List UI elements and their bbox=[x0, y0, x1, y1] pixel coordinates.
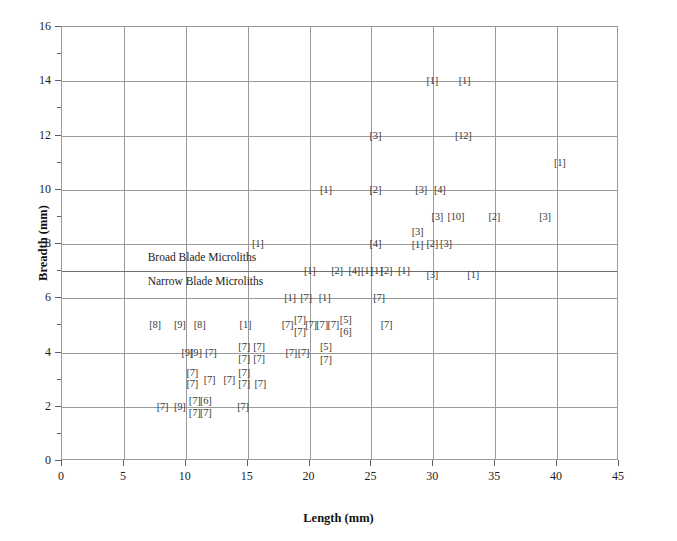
data-point-label: [7] bbox=[294, 326, 306, 337]
gridline-vertical bbox=[495, 27, 496, 459]
data-point-label: [1] bbox=[554, 156, 566, 167]
data-point-label: [5] bbox=[340, 313, 352, 324]
data-point-label: [7] bbox=[189, 406, 201, 417]
data-point-label: [2] bbox=[427, 238, 439, 249]
x-axis-tick bbox=[556, 460, 557, 466]
data-point-label: [3] bbox=[412, 225, 424, 236]
data-point-label: [7] bbox=[300, 292, 312, 303]
data-point-label: [7] bbox=[238, 366, 250, 377]
x-axis-tick bbox=[370, 460, 371, 466]
data-point-label: [9] bbox=[174, 400, 186, 411]
y-axis-tick bbox=[55, 189, 61, 190]
data-point-label: [1] bbox=[427, 75, 439, 86]
data-point-label: [7] bbox=[373, 292, 385, 303]
data-point-label: [7] bbox=[381, 319, 393, 330]
data-point-label: [7] bbox=[157, 400, 169, 411]
x-axis-tick-label: 45 bbox=[612, 470, 624, 482]
data-point-label: [7] bbox=[254, 377, 266, 388]
y-axis-tick-label: 10 bbox=[27, 183, 51, 195]
y-axis-minor-tick bbox=[57, 270, 61, 271]
data-point-label: [3] bbox=[427, 269, 439, 280]
gridline-vertical bbox=[186, 27, 187, 459]
data-point-label: [1] bbox=[240, 319, 252, 330]
y-axis-minor-tick bbox=[57, 162, 61, 163]
x-axis-tick bbox=[618, 460, 619, 466]
data-point-label: [1] bbox=[320, 183, 332, 194]
data-point-label: [7] bbox=[285, 346, 297, 357]
x-axis-tick-label: 15 bbox=[241, 470, 253, 482]
data-point-label: [1] bbox=[284, 292, 296, 303]
gridline-horizontal bbox=[62, 353, 617, 354]
gridline-vertical bbox=[557, 27, 558, 459]
data-point-label: [2] bbox=[331, 265, 343, 276]
data-point-label: [7] bbox=[316, 319, 328, 330]
data-point-label: [7] bbox=[298, 346, 310, 357]
data-point-label: [7] bbox=[305, 319, 317, 330]
data-point-label: [7] bbox=[294, 313, 306, 324]
data-point-label: [7] bbox=[320, 354, 332, 365]
data-point-label: [4] bbox=[370, 238, 382, 249]
band-annotation: Narrow Blade Microliths bbox=[148, 275, 264, 287]
y-axis-tick-label: 14 bbox=[27, 74, 51, 86]
data-point-label: [3] bbox=[431, 210, 443, 221]
x-axis-tick bbox=[494, 460, 495, 466]
y-axis-tick-label: 4 bbox=[27, 346, 51, 358]
data-point-label: [7] bbox=[238, 353, 250, 364]
gridline-horizontal bbox=[62, 298, 617, 299]
x-axis-title: Length (mm) bbox=[0, 511, 677, 526]
x-axis-tick bbox=[123, 460, 124, 466]
x-axis-tick bbox=[61, 460, 62, 466]
data-point-label: [1] bbox=[412, 239, 424, 250]
data-point-label: [6] bbox=[200, 395, 212, 406]
data-point-label: [8] bbox=[149, 319, 161, 330]
band-annotation: Broad Blade Microliths bbox=[148, 251, 257, 263]
y-axis-tick bbox=[55, 460, 61, 461]
gridline-horizontal bbox=[62, 407, 617, 408]
y-axis-tick bbox=[55, 406, 61, 407]
x-axis-tick bbox=[247, 460, 248, 466]
y-axis-tick-label: 2 bbox=[27, 400, 51, 412]
data-point-label: [1] bbox=[304, 265, 316, 276]
y-axis-minor-tick bbox=[57, 433, 61, 434]
x-axis-tick-label: 35 bbox=[488, 470, 500, 482]
x-axis-tick-label: 5 bbox=[120, 470, 126, 482]
gridline-vertical bbox=[310, 27, 311, 459]
data-point-label: [2] bbox=[488, 210, 500, 221]
data-point-label: [9] bbox=[190, 346, 202, 357]
y-axis-tick bbox=[55, 297, 61, 298]
data-point-label: [1] bbox=[252, 238, 264, 249]
y-axis-tick bbox=[55, 80, 61, 81]
data-point-label: [7] bbox=[238, 377, 250, 388]
y-axis-tick-label: 16 bbox=[27, 20, 51, 32]
x-axis-tick bbox=[309, 460, 310, 466]
x-axis-tick-label: 10 bbox=[179, 470, 191, 482]
data-point-label: [2] bbox=[370, 183, 382, 194]
data-point-label: [4] bbox=[349, 265, 361, 276]
y-axis-tick-label: 0 bbox=[27, 454, 51, 466]
x-axis-tick bbox=[185, 460, 186, 466]
data-point-label: [9] bbox=[174, 319, 186, 330]
gridline-vertical bbox=[248, 27, 249, 459]
data-point-label: [7] bbox=[205, 346, 217, 357]
data-point-label: [7] bbox=[200, 406, 212, 417]
y-axis-tick-label: 8 bbox=[27, 237, 51, 249]
x-axis-tick bbox=[432, 460, 433, 466]
data-point-label: [2] bbox=[381, 265, 393, 276]
data-point-label: [4] bbox=[434, 183, 446, 194]
y-axis-tick bbox=[55, 352, 61, 353]
data-point-label: [8] bbox=[194, 319, 206, 330]
data-point-label: [7] bbox=[186, 366, 198, 377]
data-point-label: [1] bbox=[459, 75, 471, 86]
gridline-vertical bbox=[124, 27, 125, 459]
data-point-label: [5] bbox=[320, 341, 332, 352]
data-point-label: [7] bbox=[237, 400, 249, 411]
x-axis-tick-label: 20 bbox=[303, 470, 315, 482]
data-point-label: [7] bbox=[224, 373, 236, 384]
data-point-label: [3] bbox=[539, 210, 551, 221]
data-point-label: [6] bbox=[340, 326, 352, 337]
data-point-label: [7] bbox=[282, 319, 294, 330]
data-point-label: [3] bbox=[440, 238, 452, 249]
y-axis-tick-label: 12 bbox=[27, 129, 51, 141]
gridline-horizontal bbox=[62, 190, 617, 191]
x-axis-tick-label: 30 bbox=[426, 470, 438, 482]
